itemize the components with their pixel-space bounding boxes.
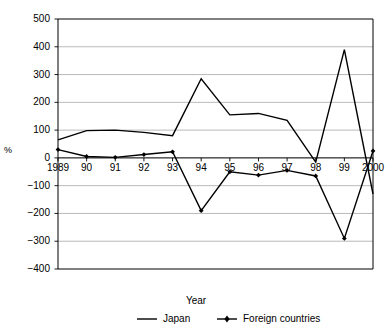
plot-area: [0, 0, 392, 333]
data-point-marker: [142, 152, 147, 157]
series-line-japan: [58, 50, 373, 194]
data-point-marker: [342, 236, 347, 241]
data-point-marker: [256, 173, 261, 178]
legend-line-icon: [136, 314, 158, 324]
data-point-marker: [371, 149, 376, 154]
data-point-marker: [113, 155, 118, 160]
series-line-foreign-countries: [58, 150, 373, 239]
x-axis-title: Year: [0, 296, 392, 306]
legend-label-japan: Japan: [163, 314, 190, 324]
data-point-marker: [313, 174, 318, 179]
chart-figure: % 5004003002001000−100−200−300−400 19899…: [0, 0, 392, 333]
data-point-marker: [170, 149, 175, 154]
data-point-marker: [285, 168, 290, 173]
legend-label-foreign-countries: Foreign countries: [243, 314, 320, 324]
legend-item-foreign-countries: Foreign countries: [216, 314, 320, 324]
data-point-marker: [56, 147, 61, 152]
legend-item-japan: Japan: [136, 314, 190, 324]
legend-line-marker-icon: [216, 314, 238, 324]
